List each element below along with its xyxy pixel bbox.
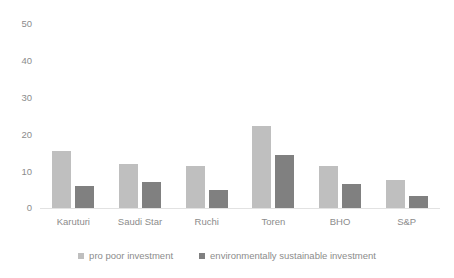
legend-swatch-pro-poor-icon [78,253,84,259]
legend-swatch-env-sustainable-icon [199,253,205,259]
bar-ruchi-pro-poor [186,166,205,208]
bar-karuturi-pro-poor [52,151,71,208]
plot-area [40,24,440,208]
bar-sp-env-sustainable [409,196,428,208]
y-axis: 50 40 30 20 10 0 [0,0,40,240]
bar-groups [40,24,440,208]
bar-karuturi-env-sustainable [75,186,94,208]
bar-bho-env-sustainable [342,184,361,208]
bar-saudi-star-env-sustainable [142,182,161,208]
bar-sp-pro-poor [386,180,405,208]
legend-item-env-sustainable: environmentally sustainable investment [199,250,376,261]
bar-group-toren [240,24,307,208]
x-axis-line [40,208,440,209]
y-tick-label-10: 10 [21,167,32,177]
x-axis: Karuturi Saudi Star Ruchi Toren BHO S&P [40,216,440,228]
bar-ruchi-env-sustainable [209,190,228,208]
bar-saudi-star-pro-poor [119,164,138,208]
y-tick-label-30: 30 [21,93,32,103]
legend-label-pro-poor: pro poor investment [89,250,173,261]
bar-bho-pro-poor [319,166,338,208]
bar-toren-env-sustainable [275,155,294,208]
bar-chart: 50 40 30 20 10 0 [0,0,454,278]
x-tick-label-bho: BHO [307,216,374,228]
bar-group-karuturi [40,24,107,208]
x-tick-label-ruchi: Ruchi [173,216,240,228]
bar-group-ruchi [173,24,240,208]
y-tick-label-50: 50 [21,19,32,29]
y-tick-label-20: 20 [21,130,32,140]
x-tick-label-sp: S&P [373,216,440,228]
legend-label-env-sustainable: environmentally sustainable investment [210,250,376,261]
y-tick-label-0: 0 [27,203,32,213]
x-tick-label-saudi-star: Saudi Star [107,216,174,228]
y-tick-label-40: 40 [21,56,32,66]
bar-group-bho [307,24,374,208]
bar-toren-pro-poor [252,126,271,208]
chart-legend: pro poor investment environmentally sust… [0,250,454,261]
bar-group-saudi-star [107,24,174,208]
x-tick-label-karuturi: Karuturi [40,216,107,228]
x-tick-label-toren: Toren [240,216,307,228]
bar-group-sp [373,24,440,208]
legend-item-pro-poor: pro poor investment [78,250,173,261]
